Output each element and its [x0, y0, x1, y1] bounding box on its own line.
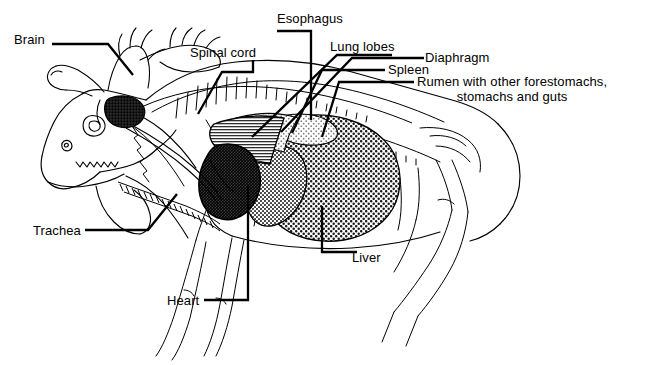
- label-lung-lobes: Lung lobes: [330, 39, 395, 54]
- moose-anatomy-diagram: [0, 0, 656, 365]
- organ-brain: [105, 96, 145, 128]
- label-liver: Liver: [352, 250, 381, 265]
- figure-root: Brain Spinal cord Esophagus Lung lobes D…: [0, 0, 656, 365]
- label-brain: Brain: [14, 32, 45, 47]
- label-heart: Heart: [167, 293, 199, 308]
- label-diaphragm: Diaphragm: [425, 50, 490, 65]
- label-rumen: Rumen with other forestomachs, stomachs …: [417, 74, 607, 104]
- label-trachea: Trachea: [33, 223, 81, 238]
- label-esophagus: Esophagus: [277, 11, 343, 26]
- leader-brain: [52, 44, 133, 75]
- leader-trachea: [85, 194, 177, 230]
- label-spinal-cord: Spinal cord: [190, 45, 256, 60]
